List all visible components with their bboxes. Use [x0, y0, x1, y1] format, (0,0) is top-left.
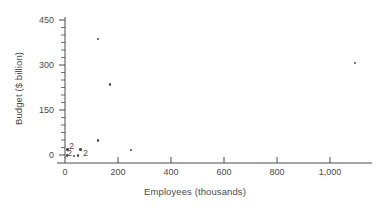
x-tick-label-200: 200	[98, 167, 138, 177]
y-tick-label-300: 300	[24, 60, 54, 70]
x-tick-label-400: 400	[151, 167, 191, 177]
x-tick-label-600: 600	[204, 167, 244, 177]
x-tick-label-1000: 1,000	[310, 167, 350, 177]
overlap-count-label: 2	[67, 148, 72, 158]
data-point	[109, 83, 111, 85]
x-tick-label-800: 800	[257, 167, 297, 177]
overlap-count-label: 2	[83, 148, 88, 158]
y-tick-label-0: 0	[24, 150, 54, 160]
scatter-plot-figure: Budget ($ billion) Employees (thousands)…	[0, 0, 380, 208]
x-tick-label-0: 0	[45, 167, 85, 177]
data-point	[79, 148, 81, 150]
y-tick-label-150: 150	[24, 105, 54, 115]
x-axis-title: Employees (thousands)	[120, 186, 270, 197]
y-axis-title: Budget ($ billion)	[13, 24, 24, 154]
data-point	[77, 154, 79, 156]
y-tick-label-450: 450	[24, 15, 54, 25]
